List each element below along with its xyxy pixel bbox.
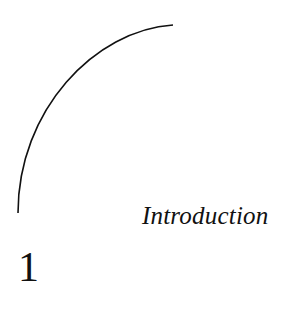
chapter-number: 1: [18, 246, 39, 288]
decorative-arc: [0, 0, 294, 310]
chapter-title: Introduction: [142, 202, 268, 230]
